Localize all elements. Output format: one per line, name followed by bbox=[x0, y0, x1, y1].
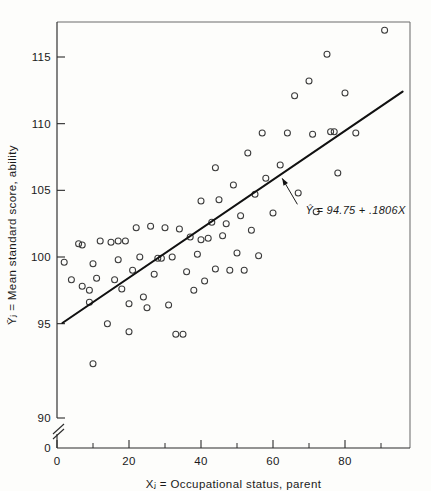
data-point bbox=[241, 267, 247, 273]
data-point bbox=[248, 227, 254, 233]
data-point bbox=[295, 190, 301, 196]
data-point bbox=[126, 329, 132, 335]
data-point bbox=[335, 170, 341, 176]
data-point bbox=[191, 287, 197, 293]
data-point bbox=[382, 27, 388, 33]
data-point bbox=[176, 226, 182, 232]
data-point bbox=[137, 254, 143, 260]
y-axis-ticks: 90951001051101150 bbox=[31, 51, 65, 454]
data-point bbox=[220, 233, 226, 239]
plot-canvas: 204060800 90951001051101150 Ŷ = 94.75 + … bbox=[0, 0, 431, 491]
data-point bbox=[68, 277, 74, 283]
plot-frame bbox=[57, 22, 410, 448]
data-point bbox=[263, 175, 269, 181]
data-point bbox=[223, 221, 229, 227]
y-tick-label-90: 90 bbox=[38, 412, 51, 424]
data-point bbox=[212, 266, 218, 272]
data-point bbox=[292, 93, 298, 99]
data-point bbox=[353, 130, 359, 136]
data-point bbox=[90, 261, 96, 267]
y-tick-label-115: 115 bbox=[32, 51, 51, 63]
data-point bbox=[90, 361, 96, 367]
data-point bbox=[216, 197, 222, 203]
data-point bbox=[104, 321, 110, 327]
y-axis-title: Ȳⱼ = Mean standard score, ability bbox=[6, 145, 18, 325]
data-point bbox=[342, 90, 348, 96]
data-point bbox=[166, 302, 172, 308]
data-point bbox=[180, 331, 186, 337]
data-point bbox=[86, 287, 92, 293]
y-axis-break-icon bbox=[53, 424, 64, 439]
data-point bbox=[270, 210, 276, 216]
data-point bbox=[162, 225, 168, 231]
data-point bbox=[259, 130, 265, 136]
data-point bbox=[94, 275, 100, 281]
data-point bbox=[119, 286, 125, 292]
break-slash-2 bbox=[53, 429, 64, 439]
data-point bbox=[97, 238, 103, 244]
data-point bbox=[202, 278, 208, 284]
data-point bbox=[184, 269, 190, 275]
data-point bbox=[79, 283, 85, 289]
data-point bbox=[173, 331, 179, 337]
regression-equation-label: Ŷ = 94.75 + .1806X bbox=[305, 204, 406, 216]
data-point bbox=[140, 294, 146, 300]
data-point bbox=[112, 277, 118, 283]
x-tick-label-60: 60 bbox=[266, 455, 279, 467]
data-point bbox=[130, 267, 136, 273]
x-origin-label: 0 bbox=[54, 455, 61, 467]
data-point bbox=[212, 165, 218, 171]
data-point bbox=[230, 182, 236, 188]
x-tick-label-80: 80 bbox=[338, 455, 351, 467]
y-tick-label-95: 95 bbox=[38, 318, 51, 330]
data-point bbox=[169, 254, 175, 260]
data-point bbox=[256, 253, 262, 259]
data-point bbox=[284, 130, 290, 136]
break-slash-1 bbox=[53, 424, 64, 434]
data-point bbox=[277, 162, 283, 168]
data-point bbox=[122, 238, 128, 244]
data-point bbox=[133, 225, 139, 231]
data-point bbox=[115, 257, 121, 263]
scatter-plot-figure: 204060800 90951001051101150 Ŷ = 94.75 + … bbox=[0, 0, 431, 491]
data-point bbox=[144, 305, 150, 311]
y-tick-label-110: 110 bbox=[32, 118, 51, 130]
data-point bbox=[238, 213, 244, 219]
annotation-arrowhead bbox=[282, 178, 288, 185]
data-point bbox=[324, 51, 330, 57]
data-point bbox=[310, 131, 316, 137]
x-tick-label-20: 20 bbox=[122, 455, 135, 467]
y-tick-label-100: 100 bbox=[31, 251, 51, 263]
data-point bbox=[115, 238, 121, 244]
data-point bbox=[61, 259, 67, 265]
data-point bbox=[151, 271, 157, 277]
data-point bbox=[205, 235, 211, 241]
data-point bbox=[227, 267, 233, 273]
data-point bbox=[148, 223, 154, 229]
data-point bbox=[306, 78, 312, 84]
y-origin-label: 0 bbox=[44, 442, 51, 454]
data-point bbox=[126, 301, 132, 307]
data-point bbox=[194, 251, 200, 257]
data-point bbox=[198, 237, 204, 243]
equation-annotation: Ŷ = 94.75 + .1806X bbox=[282, 178, 406, 216]
y-tick-label-105: 105 bbox=[31, 184, 51, 196]
data-point bbox=[198, 198, 204, 204]
data-point bbox=[234, 250, 240, 256]
x-axis-title: Xⱼ = Occupational status, parent bbox=[146, 478, 322, 490]
data-point bbox=[79, 242, 85, 248]
x-tick-label-40: 40 bbox=[194, 455, 207, 467]
data-point bbox=[76, 241, 82, 247]
data-point bbox=[331, 129, 337, 135]
data-point bbox=[108, 239, 114, 245]
x-axis-ticks: 204060800 bbox=[54, 440, 381, 467]
data-point bbox=[245, 150, 251, 156]
data-points bbox=[61, 27, 387, 366]
